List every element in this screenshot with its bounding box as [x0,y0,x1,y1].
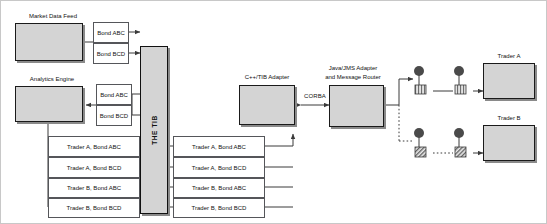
analytics-message-label: Bond ABC [97,92,131,98]
market-data-feed-title: Market Data Feed [15,13,91,19]
analytics-engine-title: Analytics Engine [15,76,89,82]
feed-message-bond-bcd[interactable]: Bond BCD [93,43,129,64]
relay-icon-b1 [414,128,426,157]
relay-icon-a1 [414,66,426,94]
market-data-feed-box[interactable] [15,23,83,61]
java-jms-adapter-title-line1: Java/JMS Adapter [317,65,389,71]
diagram-canvas: Market Data Feed Bond ABC Bond BCD Analy… [0,0,547,224]
java-jms-adapter-box[interactable] [329,85,384,127]
trader-message-label: Trader A, Bond ABC [174,144,264,150]
feed-message-label: Bond BCD [94,51,128,57]
tib-bus[interactable]: THE TIB [140,46,168,214]
cpp-tib-adapter-box[interactable] [239,85,295,125]
trader-message-left-3[interactable]: Trader B, Bond ABC [48,178,140,198]
analytics-message-bond-abc[interactable]: Bond ABC [96,84,132,105]
trader-message-right-4[interactable]: Trader B, Bond BCD [173,198,265,218]
trader-a-title: Trader A [483,53,535,59]
trader-message-right-3[interactable]: Trader B, Bond ABC [173,178,265,198]
trader-message-left-4[interactable]: Trader B, Bond BCD [48,198,140,218]
trader-message-label: Trader A, Bond ABC [49,144,139,150]
feed-message-bond-abc[interactable]: Bond ABC [93,22,129,43]
trader-message-label: Trader B, Bond ABC [174,185,264,191]
trader-message-right-2[interactable]: Trader A, Bond BCD [173,157,265,178]
trader-message-left-2[interactable]: Trader A, Bond BCD [48,157,140,178]
trader-message-label: Trader B, Bond BCD [174,205,264,211]
trader-b-box[interactable] [483,125,535,161]
trader-message-left-1[interactable]: Trader A, Bond ABC [48,136,140,157]
trader-b-title: Trader B [483,115,535,121]
java-jms-adapter-title-line2: and Message Router [317,74,389,80]
cpp-tib-adapter-title: C++/TIB Adapter [227,74,307,80]
trader-message-right-1[interactable]: Trader A, Bond ABC [173,136,265,157]
analytics-message-label: Bond BCD [97,113,131,119]
trader-message-label: Trader B, Bond BCD [49,205,139,211]
feed-message-label: Bond ABC [94,30,128,36]
trader-message-label: Trader A, Bond BCD [174,165,264,171]
relay-icon-a2 [454,66,466,94]
analytics-message-bond-bcd[interactable]: Bond BCD [96,105,132,126]
relay-icon-b2 [454,128,466,157]
analytics-engine-box[interactable] [15,86,83,122]
trader-message-label: Trader A, Bond BCD [49,165,139,171]
tib-bus-label: THE TIB [151,115,158,144]
trader-message-label: Trader B, Bond ABC [49,185,139,191]
trader-a-box[interactable] [483,63,535,99]
